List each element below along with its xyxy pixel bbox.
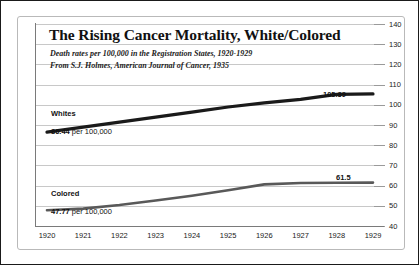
series-end-value-whites: 105.39 <box>323 90 346 99</box>
series-start-unit-whites: per 100,000 <box>70 127 112 136</box>
series-label-whites: Whites <box>51 109 76 118</box>
chart-title: The Rising Cancer Mortality, White/Color… <box>49 26 341 44</box>
series-start-unit-colored: per 100,000 <box>70 207 112 216</box>
page-frame: 140130120110100908070605040 192019211922… <box>0 0 419 265</box>
plot-area: 140130120110100908070605040 192019211922… <box>18 17 406 251</box>
series-label-colored: Colored <box>51 189 79 198</box>
series-start-number-whites: 86.44 <box>51 127 70 136</box>
chart-subtitle-line-2: From S.J. Holmes, American Journal of Ca… <box>50 61 229 70</box>
series-start-value-whites: 86.44 per 100,000 <box>51 127 112 136</box>
series-end-value-colored: 61.5 <box>336 173 351 182</box>
chart-card: 140130120110100908070605040 192019211922… <box>17 16 405 250</box>
chart-subtitle-line-1: Death rates per 100,000 in the Registrat… <box>50 49 252 58</box>
series-start-number-colored: 47.77 <box>51 207 70 216</box>
series-start-value-colored: 47.77 per 100,000 <box>51 207 112 216</box>
